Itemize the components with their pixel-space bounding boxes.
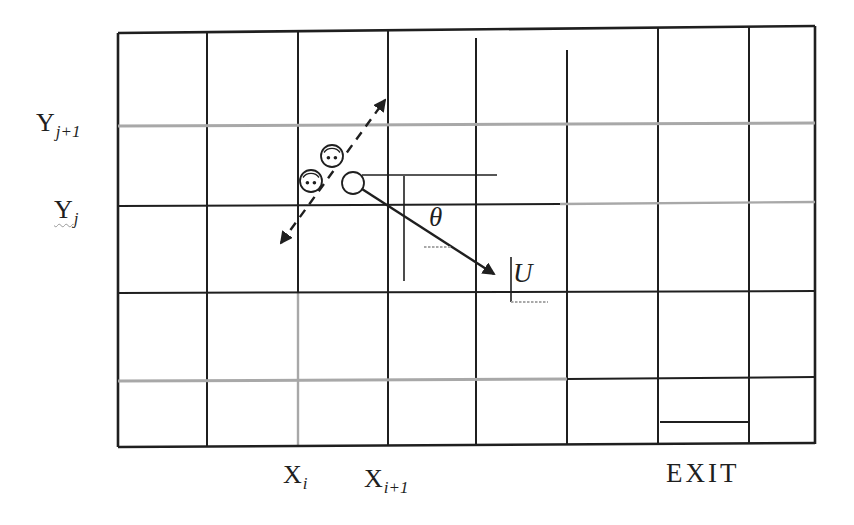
label-y-j: Yj xyxy=(54,197,79,227)
grid-line-horizontal-faded xyxy=(118,379,567,381)
pedestrian-face-icon xyxy=(321,145,343,167)
grid-line-y-j xyxy=(118,204,560,206)
diagram-drawing xyxy=(0,0,854,525)
grid xyxy=(118,26,815,447)
label-x-i: Xi xyxy=(283,462,308,492)
face-eye xyxy=(334,156,338,160)
grid-line-y-j-plus-1 xyxy=(118,123,815,126)
label-y-j-plus-1: Yj+1 xyxy=(36,110,80,140)
pedestrian-face-icon xyxy=(300,170,322,192)
face-eye xyxy=(313,181,317,185)
grid-border-bottom xyxy=(118,443,815,447)
label-velocity-u: U xyxy=(513,260,534,287)
grid-line-horizontal xyxy=(567,377,815,379)
grid-line-horizontal xyxy=(118,291,815,293)
grid-line-y-j-faded xyxy=(560,202,815,204)
grid-border-top xyxy=(118,26,815,33)
label-x-i-plus-1: Xi+1 xyxy=(364,466,408,496)
label-exit: EXIT xyxy=(666,460,739,487)
agent-circle xyxy=(342,172,364,194)
desired-direction-dashed-arrow xyxy=(281,100,385,243)
face-eye xyxy=(306,181,310,185)
face-eye xyxy=(327,156,331,160)
label-theta: θ xyxy=(429,204,443,231)
figure-canvas: Yj+1 Yj Xi Xi+1 EXIT θ U xyxy=(0,0,854,525)
velocity-vector-arrow xyxy=(362,189,494,274)
